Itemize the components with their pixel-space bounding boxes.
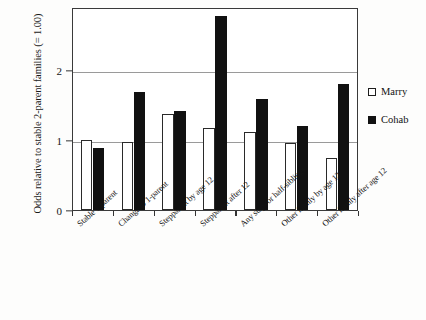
bar-cohab-1 [134, 92, 146, 210]
x-tick-0 [72, 211, 73, 216]
filled-square-icon [368, 116, 376, 124]
x-tick-4 [235, 211, 236, 216]
y-axis-title: Odds relative to stable 2-parent familie… [32, 0, 43, 229]
bar-cohab-6 [338, 84, 350, 210]
bar-marry-0 [81, 140, 93, 210]
bar-marry-2 [162, 114, 174, 210]
bar-marry-3 [203, 128, 215, 210]
bar-marry-4 [244, 132, 256, 210]
bar-cohab-3 [215, 16, 227, 210]
x-tick-5 [276, 211, 277, 216]
legend-item-cohab: Cohab [368, 114, 408, 125]
x-tick-6 [317, 211, 318, 216]
y-tick-label-1: 1 [40, 135, 62, 147]
legend-label-marry: Marry [381, 86, 407, 97]
chart-figure: Odds relative to stable 2-parent familie… [0, 0, 426, 320]
bar-cohab-4 [256, 99, 268, 210]
x-tick-1 [113, 211, 114, 216]
legend-item-marry: Marry [368, 86, 408, 97]
hollow-square-icon [368, 88, 376, 96]
bar-marry-1 [122, 142, 134, 210]
plot-area [72, 8, 358, 211]
chart-legend: MarryCohab [368, 86, 408, 142]
x-tick-3 [195, 211, 196, 216]
y-tick-label-0: 0 [40, 205, 62, 217]
legend-label-cohab: Cohab [381, 114, 408, 125]
y-tick-label-2: 2 [40, 65, 62, 77]
x-tick-2 [154, 211, 155, 216]
x-tick-7 [358, 211, 359, 216]
